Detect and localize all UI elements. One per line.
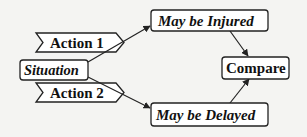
compare-box: Compare <box>222 57 289 79</box>
decision-diagram: Action 1 Action 2 Situation May be Injur… <box>0 0 307 137</box>
compare-label: Compare <box>226 60 286 76</box>
arrow-delayed-to-compare <box>230 79 249 103</box>
injured-box: May be Injured <box>151 10 268 31</box>
situation-label: Situation <box>24 62 79 78</box>
action-2-chevron: Action 2 <box>36 83 124 102</box>
injured-label: May be Injured <box>157 13 254 29</box>
arrow-injured-to-compare <box>230 31 248 56</box>
delayed-label: May be Delayed <box>155 107 256 123</box>
delayed-box: May be Delayed <box>151 103 268 126</box>
situation-box: Situation <box>20 60 88 80</box>
action-1-label: Action 1 <box>50 35 104 51</box>
action-2-label: Action 2 <box>50 85 104 101</box>
